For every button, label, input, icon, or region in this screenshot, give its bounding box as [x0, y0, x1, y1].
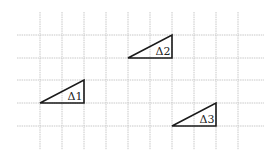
triangle-2-label: Δ2: [156, 45, 171, 58]
grid: [17, 12, 264, 150]
triangle-1-label: Δ1: [68, 90, 83, 103]
triangle-3-label: Δ3: [200, 113, 215, 126]
grid-diagram: Δ1 Δ2 Δ3: [0, 0, 271, 156]
